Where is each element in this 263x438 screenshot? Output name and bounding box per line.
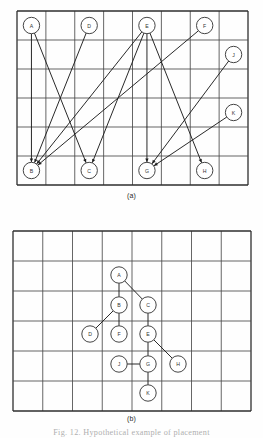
panel-b-edges: [96, 281, 172, 384]
node-label: F: [203, 23, 206, 29]
node-label: K: [146, 390, 150, 396]
figure-caption: Fig. 12. Hypothetical example of placeme…: [0, 428, 263, 437]
node-c[interactable]: C: [140, 297, 156, 313]
panel-a-container: ADEFJKBCGH: [0, 0, 263, 210]
panel-b-label: (b): [0, 415, 263, 422]
node-label: K: [232, 110, 236, 116]
node-label: C: [146, 302, 150, 308]
node-label: E: [146, 331, 150, 337]
node-label: B: [30, 168, 34, 174]
node-a[interactable]: A: [111, 267, 127, 283]
node-d[interactable]: D: [82, 326, 98, 342]
connection-line: [125, 281, 142, 299]
connection-line: [96, 311, 113, 328]
node-f[interactable]: F: [111, 326, 127, 342]
node-f[interactable]: F: [196, 17, 212, 33]
node-j[interactable]: J: [225, 46, 241, 62]
node-label: F: [117, 331, 120, 337]
node-d[interactable]: D: [81, 17, 97, 33]
node-label: H: [176, 361, 180, 367]
node-c[interactable]: C: [81, 162, 97, 178]
node-label: B: [117, 302, 121, 308]
node-label: D: [88, 331, 92, 337]
figure-page: ADEFJKBCGH (a) ABCDFEJGHK (b) Fig. 12. H…: [0, 0, 263, 438]
node-b[interactable]: B: [111, 297, 127, 313]
panel-a-diagram: ADEFJKBCGH: [0, 0, 263, 200]
panel-a-gridlines: [17, 11, 248, 185]
node-h[interactable]: H: [170, 356, 186, 372]
arrowhead: [30, 158, 33, 162]
panel-b-gridlines: [13, 231, 251, 411]
node-k[interactable]: K: [225, 104, 241, 120]
node-j[interactable]: J: [111, 356, 127, 372]
node-label: A: [30, 23, 34, 29]
node-h[interactable]: H: [196, 162, 212, 178]
node-label: C: [87, 168, 91, 174]
panel-a-label: (a): [0, 192, 263, 199]
panel-b-diagram: ABCDFEJGHK: [0, 218, 263, 418]
connection-line: [154, 340, 172, 358]
node-label: G: [145, 168, 149, 174]
node-g[interactable]: G: [139, 162, 155, 178]
node-label: D: [87, 23, 91, 29]
node-label: H: [203, 168, 207, 174]
node-g[interactable]: G: [140, 356, 156, 372]
node-a[interactable]: A: [23, 17, 39, 33]
node-label: A: [117, 272, 121, 278]
node-label: E: [145, 23, 149, 29]
node-label: G: [146, 361, 150, 367]
node-e[interactable]: E: [139, 17, 155, 33]
node-label: J: [118, 361, 121, 367]
panel-b-container: ABCDFEJGHK: [0, 218, 263, 418]
node-k[interactable]: K: [140, 385, 156, 401]
arrowhead: [145, 158, 148, 162]
node-b[interactable]: B: [23, 162, 39, 178]
node-label: J: [232, 52, 235, 58]
node-e[interactable]: E: [140, 326, 156, 342]
